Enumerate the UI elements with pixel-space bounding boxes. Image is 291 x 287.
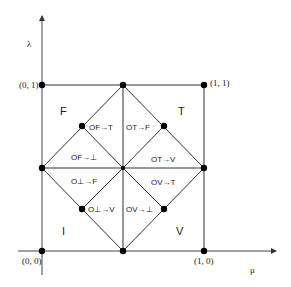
region-label-v: V xyxy=(176,225,184,237)
point-top-mid xyxy=(120,82,126,88)
x-axis-label: μ xyxy=(250,265,255,275)
point-1-1 xyxy=(201,82,207,88)
ordering-obot-to-f: O⊥→F xyxy=(71,177,97,186)
ordering-of-to-t: OF→T xyxy=(89,123,113,132)
point-0-1 xyxy=(39,82,45,88)
corner-label-1-0: (1, 0) xyxy=(194,256,214,266)
point-1-0 xyxy=(201,248,207,254)
point-inner-tl xyxy=(79,123,85,129)
region-label-t: T xyxy=(178,105,185,117)
point-left-mid xyxy=(39,165,45,171)
diagonal-br-center xyxy=(123,168,164,209)
y-axis-label: λ xyxy=(27,39,32,49)
ordering-ov-to-bot: OV→⊥ xyxy=(126,205,153,214)
diagonal-bl-center xyxy=(82,168,123,209)
corner-label-0-1: (0, 1) xyxy=(19,80,39,90)
point-inner-br xyxy=(161,206,167,212)
ordering-ov-to-t: OV→T xyxy=(151,178,176,187)
point-0-0 xyxy=(39,248,45,254)
corner-label-1-1: (1, 1) xyxy=(210,78,230,88)
bilattice-diagram: λ μ (0, 1) (1, 1) (0, 0) (1, 0) F T I V … xyxy=(0,0,291,287)
ordering-obot-to-v: O⊥→V xyxy=(88,205,115,214)
diagram-svg: λ μ (0, 1) (1, 1) (0, 0) (1, 0) F T I V … xyxy=(0,0,291,287)
point-inner-bl xyxy=(79,206,85,212)
region-label-i: I xyxy=(62,225,65,237)
point-bottom-mid xyxy=(120,248,126,254)
point-inner-tr xyxy=(161,123,167,129)
corner-label-0-0: (0, 0) xyxy=(22,256,42,266)
region-label-f: F xyxy=(60,105,67,117)
point-right-mid xyxy=(201,165,207,171)
ordering-of-to-bot: OF→⊥ xyxy=(71,153,97,162)
ordering-ot-to-v: OT→V xyxy=(151,155,176,164)
point-center xyxy=(121,166,125,170)
ordering-ot-to-f: OT→F xyxy=(126,123,150,132)
